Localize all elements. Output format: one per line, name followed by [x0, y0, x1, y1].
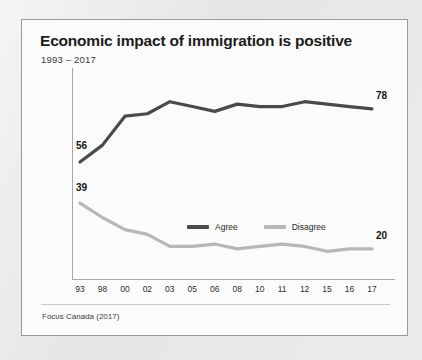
series-line-agree — [80, 102, 372, 162]
source-divider — [41, 304, 390, 305]
x-axis-tick-06: 06 — [210, 284, 219, 294]
data-label-agree-end: 78 — [376, 90, 387, 101]
x-axis-tick-15: 15 — [322, 284, 331, 294]
x-axis-tick-03: 03 — [165, 284, 174, 294]
x-axis-tick-12: 12 — [300, 284, 309, 294]
x-axis-tick-11: 11 — [278, 284, 287, 294]
legend-item-disagree[interactable]: Disagree — [264, 222, 326, 232]
x-axis-tick-98: 98 — [98, 284, 107, 294]
x-axis-tick-08: 08 — [232, 284, 241, 294]
x-axis-tick-labels: 9398000203050608101112151617 — [72, 284, 395, 300]
page-title: Economic impact of immigration is positi… — [40, 32, 352, 50]
legend-label-disagree: Disagree — [292, 222, 326, 232]
legend-swatch-agree — [187, 225, 209, 229]
legend-label-agree: Agree — [215, 222, 238, 232]
x-axis-tick-93: 93 — [75, 284, 84, 294]
x-axis-tick-02: 02 — [143, 284, 152, 294]
x-axis-tick-00: 00 — [120, 284, 129, 294]
chart-card: Economic impact of immigration is positi… — [21, 19, 408, 336]
plot-area: 56 78 39 20 Agree Disagree — [72, 68, 395, 283]
source-caption: Focus Canada (2017) — [42, 312, 119, 321]
chart-subtitle: 1993 – 2017 — [41, 54, 96, 65]
x-axis-tick-10: 10 — [255, 284, 264, 294]
legend-swatch-disagree — [264, 225, 286, 229]
line-chart-svg — [72, 68, 395, 283]
x-axis-tick-05: 05 — [188, 284, 197, 294]
chart-legend: Agree Disagree — [187, 222, 326, 232]
legend-item-agree[interactable]: Agree — [187, 222, 238, 232]
data-label-disagree-end: 20 — [376, 230, 387, 241]
data-label-disagree-start: 39 — [76, 182, 87, 193]
x-axis-tick-17: 17 — [367, 284, 376, 294]
data-label-agree-start: 56 — [76, 140, 87, 151]
x-axis-tick-16: 16 — [345, 284, 354, 294]
